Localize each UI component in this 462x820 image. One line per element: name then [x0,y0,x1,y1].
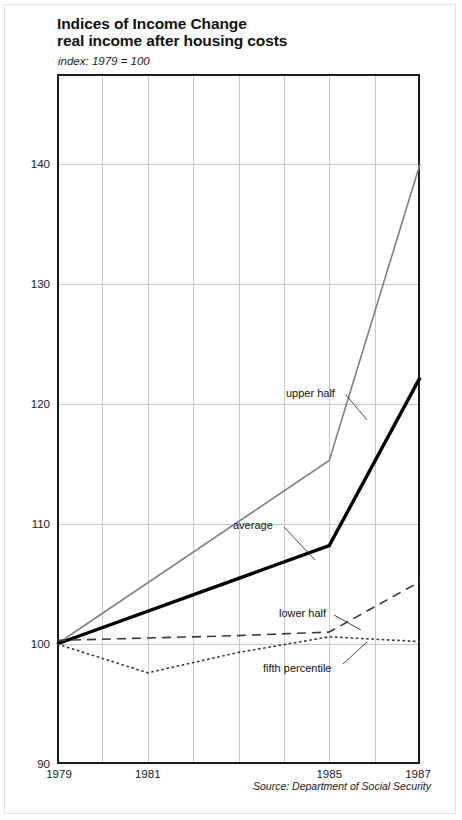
x-axis-tick-label: 1987 [405,768,431,780]
series-line-fifth-percentile [57,637,420,673]
series-lines [57,74,420,764]
plot-area: 901001101201301401979198119851987 upper … [57,74,420,764]
source-note: Source: Department of Social Security [253,780,431,792]
leader-line-upper-half [346,395,367,420]
leader-line-fifth-percentile [343,642,367,664]
x-axis-tick-label: 1985 [316,768,342,780]
x-axis-tick-label: 1979 [46,768,72,780]
title-line-1: Indices of Income Change [57,15,437,32]
series-line-upper-half [57,164,420,644]
title-line-2: real income after housing costs [57,32,437,49]
y-axis-tick-label: 110 [32,518,50,530]
series-label-average: average [233,519,273,531]
y-axis-tick-label: 140 [31,158,50,170]
x-axis-tick-label: 1981 [135,768,161,780]
chart-card: Indices of Income Change real income aft… [4,4,456,814]
y-axis-tick-label: 120 [31,398,50,410]
series-line-lower-half [57,582,420,641]
series-label-fifth-percentile: fifth percentile [263,662,331,674]
y-axis-tick-label: 130 [31,278,50,290]
series-label-lower-half: lower half [279,607,326,619]
series-label-upper-half: upper half [286,387,335,399]
chart-subtitle: index: 1979 = 100 [58,55,150,67]
page-title: Indices of Income Change real income aft… [57,15,437,49]
series-line-average [57,378,420,644]
y-axis-tick-label: 100 [31,638,50,650]
